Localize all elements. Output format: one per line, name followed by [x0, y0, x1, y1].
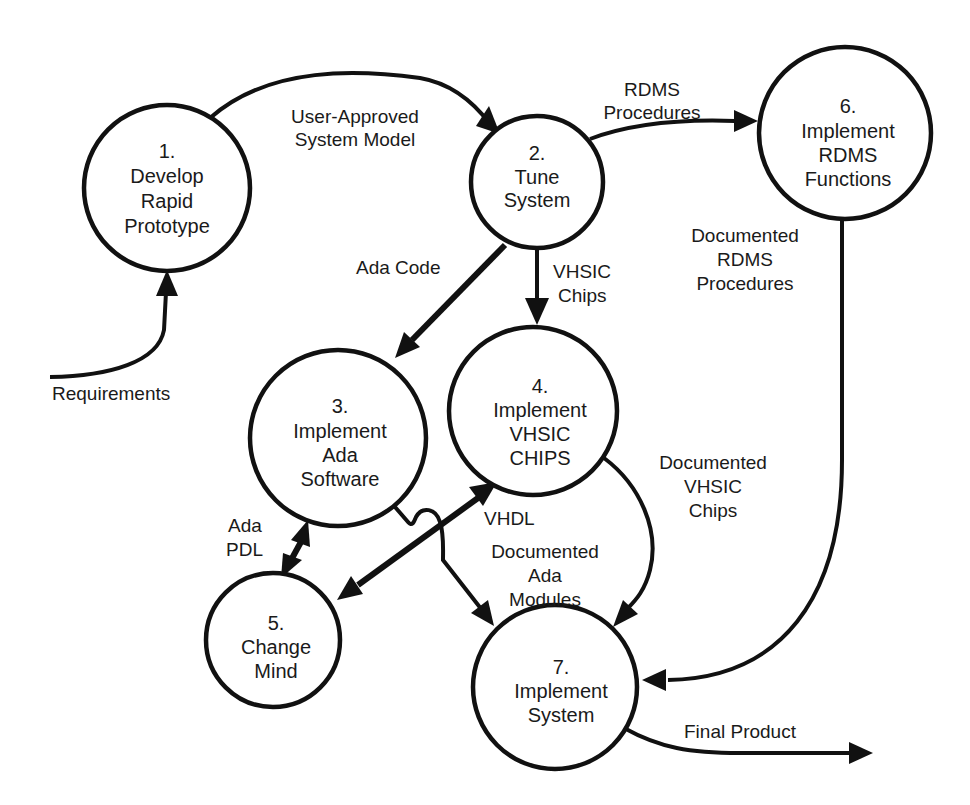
- process-number: 5.: [268, 612, 285, 634]
- flow-label-vhsic-2: VHSIC: [684, 476, 742, 497]
- flow-label-documented-2: Documented: [659, 452, 767, 473]
- process-label-line: Implement: [293, 420, 387, 442]
- flow-label-requirements: Requirements: [52, 383, 170, 404]
- flow-label-modules: Modules: [509, 589, 581, 610]
- flow-label-vhsic: VHSIC: [553, 261, 611, 282]
- flow-label-ada-2: Ada: [528, 565, 562, 586]
- process-label-line: Ada: [322, 444, 358, 466]
- process-label-line: Change: [241, 636, 311, 658]
- arrowhead-icon: [337, 576, 363, 600]
- arrowhead-icon: [471, 600, 494, 626]
- flow-label-chips-2: Chips: [689, 500, 738, 521]
- process-number: 7.: [553, 656, 570, 678]
- process-label-line: Software: [301, 468, 380, 490]
- flow-label-chips: Chips: [558, 285, 607, 306]
- flow-label-system-model: System Model: [295, 129, 415, 150]
- process-2-tune-system: 2. Tune System: [471, 116, 603, 248]
- process-label-line: System: [504, 189, 571, 211]
- flow-requirements: [50, 270, 178, 377]
- process-label-line: Develop: [130, 165, 203, 187]
- process-5-change-mind: 5. Change Mind: [206, 573, 340, 707]
- process-label-line: CHIPS: [509, 447, 570, 469]
- flow-vhsic-chips: [525, 249, 549, 325]
- arrowhead-icon: [525, 298, 549, 325]
- arrowhead-icon: [734, 110, 758, 132]
- flow-documented-vhsic-chips: [604, 458, 653, 627]
- process-label-line: Functions: [805, 168, 892, 190]
- flow-label-rdms: RDMS: [624, 79, 680, 100]
- process-label-line: Implement: [493, 399, 587, 421]
- flow-label-final-product: Final Product: [684, 721, 797, 742]
- process-number: 1.: [159, 140, 176, 162]
- process-1-develop-rapid-prototype: 1. Develop Rapid Prototype: [84, 105, 250, 271]
- process-label-line: System: [528, 704, 595, 726]
- process-label-line: RDMS: [819, 144, 878, 166]
- arrowhead-icon: [849, 742, 873, 764]
- flow-label-documented-3: Documented: [691, 225, 799, 246]
- flow-label-ada: Ada: [228, 515, 262, 536]
- flow-label-pdl: PDL: [226, 539, 263, 560]
- flow-label-ada-code: Ada Code: [356, 257, 441, 278]
- process-6-implement-rdms-functions: 6. Implement RDMS Functions: [759, 47, 931, 219]
- flow-label-rdms-2: RDMS: [717, 249, 773, 270]
- process-number: 2.: [529, 142, 546, 164]
- process-7-implement-system: 7. Implement System: [473, 605, 637, 769]
- flow-label-documented: Documented: [491, 541, 599, 562]
- process-label-line: Mind: [254, 660, 297, 682]
- flow-label-procedures: Procedures: [603, 102, 700, 123]
- process-number: 6.: [840, 95, 857, 117]
- data-flow-diagram: 1. Develop Rapid Prototype 2. Tune Syste…: [0, 0, 970, 805]
- flow-label-procedures-2: Procedures: [696, 273, 793, 294]
- arrowhead-icon: [291, 520, 310, 547]
- arrowhead-icon: [642, 669, 666, 691]
- flow-label-user-approved: User-Approved: [291, 106, 419, 127]
- process-4-implement-vhsic-chips: 4. Implement VHSIC CHIPS: [449, 327, 617, 495]
- flow-label-vhdl: VHDL: [484, 508, 535, 529]
- process-number: 4.: [532, 375, 549, 397]
- arrowhead-icon: [156, 270, 178, 296]
- process-label-line: Prototype: [124, 215, 210, 237]
- process-label-line: Tune: [515, 166, 560, 188]
- process-label-line: Implement: [514, 680, 608, 702]
- process-label-line: VHSIC: [509, 423, 570, 445]
- flow-ada-pdl: [281, 520, 310, 578]
- process-label-line: Implement: [801, 120, 895, 142]
- process-number: 3.: [332, 395, 349, 417]
- process-label-line: Rapid: [141, 190, 193, 212]
- process-3-implement-ada-software: 3. Implement Ada Software: [250, 350, 426, 526]
